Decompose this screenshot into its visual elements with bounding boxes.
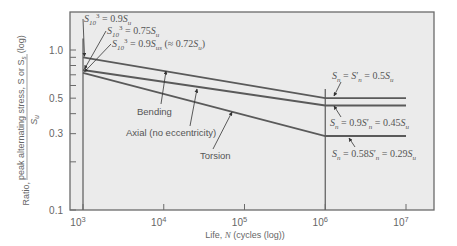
x-tick-label: 106 — [313, 215, 328, 228]
y-tick-label: 0.5 — [49, 93, 63, 104]
sn-fatigue-chart: 103104105106107 1.00.50.30.1 S103 = 0.9S… — [0, 0, 457, 246]
x-tick-label: 104 — [151, 215, 166, 228]
x-tick-label: 103 — [70, 215, 85, 228]
y-tick-label: 0.1 — [49, 205, 63, 216]
y-axis-title: Ratio,peak alternating stress, S or Ss(l… — [16, 35, 40, 205]
svg-text:Torsion: Torsion — [200, 150, 231, 161]
svg-text:Su: Su — [29, 115, 40, 125]
x-tick-label: 107 — [393, 215, 408, 228]
x-tick-label: 105 — [232, 215, 247, 228]
x-axis-title: Life, N (cycles (log)) — [205, 230, 285, 240]
svg-text:Axial (no eccentricity): Axial (no eccentricity) — [126, 127, 216, 138]
y-tick-label: 1.0 — [49, 45, 63, 56]
y-tick-label: 0.3 — [49, 128, 63, 139]
svg-text:Bending: Bending — [137, 106, 172, 117]
svg-text:Ratio,: Ratio, — [21, 182, 31, 206]
svg-text:peak alternating stress, S or: peak alternating stress, S or Ss(log) — [16, 35, 27, 180]
